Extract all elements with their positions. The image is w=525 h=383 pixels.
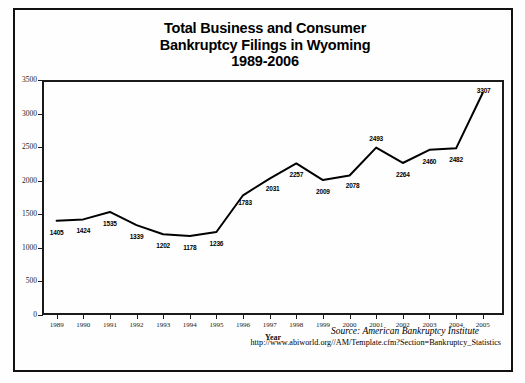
y-axis-tick-label: 1000 [22,244,37,252]
y-axis-tick-label: 2500 [22,143,37,151]
data-point-label: 2493 [369,135,383,142]
x-axis-tick-mark [57,315,58,319]
y-axis-tick-label: 1500 [22,211,37,219]
data-point-label: 2031 [266,185,280,192]
x-axis-tick-mark [323,315,324,319]
x-axis-tick-mark [110,315,111,319]
x-axis-tick-mark [83,315,84,319]
source-url: http://www.abiworld.org//AM/Template.cfm… [15,337,501,348]
x-axis-tick-mark [376,315,377,319]
y-axis-tick-label: 3500 [22,76,37,84]
data-point-label: 1783 [238,200,252,207]
data-point-label: 2009 [316,189,330,196]
y-axis-tick-label: 2000 [22,177,37,185]
chart-title: Total Business and Consumer Bankruptcy F… [15,20,515,70]
x-axis-tick-mark [429,315,430,319]
x-axis-tick-mark [350,315,351,319]
data-point-label: 3307 [477,88,491,95]
chart-title-line-3: 1989-2006 [15,53,515,70]
x-axis-tick-mark [190,315,191,319]
y-axis-tick-label: 3000 [22,110,37,118]
chart-title-line-1: Total Business and Consumer [15,20,515,37]
source-block: Source: American Bankruptcy Institute ht… [15,325,501,348]
x-axis-tick-mark [243,315,244,319]
data-point-label: 2078 [346,183,360,190]
line-series [42,80,504,315]
plot-area: 0500100015002000250030003500 19891990199… [42,80,504,315]
chart-page: Total Business and Consumer Bankruptcy F… [0,0,525,383]
x-axis-tick-mark [296,315,297,319]
source-attribution: Source: American Bankruptcy Institute [15,325,501,337]
chart-frame: Total Business and Consumer Bankruptcy F… [13,8,513,372]
y-axis-tick-mark [38,315,43,316]
series-polyline [57,93,483,236]
data-point-label: 1405 [50,229,64,236]
data-point-label: 2264 [396,172,410,179]
x-axis-tick-mark [483,315,484,319]
chart-title-line-2: Bankruptcy Filings in Wyoming [15,37,515,54]
x-axis-tick-mark [403,315,404,319]
data-point-label: 1202 [156,243,170,250]
data-point-label: 1535 [103,221,117,228]
x-axis-tick-mark [216,315,217,319]
data-point-label: 2460 [423,159,437,166]
x-axis-tick-mark [163,315,164,319]
x-axis-tick-mark [456,315,457,319]
data-point-label: 1339 [130,234,144,241]
y-axis-tick-label: 500 [26,278,37,286]
data-point-label: 2257 [289,172,303,179]
y-axis-tick-label: 0 [33,311,37,319]
data-point-label: 2482 [449,157,463,164]
x-axis-tick-mark [270,315,271,319]
x-axis-tick-mark [137,315,138,319]
data-point-label: 1178 [183,245,196,252]
data-point-label: 1424 [76,228,90,235]
data-point-label: 1236 [210,241,224,248]
